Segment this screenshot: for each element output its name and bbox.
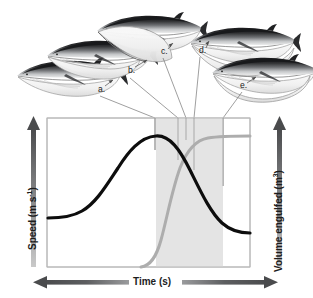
y-right-axis-label-close: ) bbox=[273, 170, 284, 173]
callout-label-e: e. bbox=[240, 80, 247, 90]
y-left-axis-label-close: ) bbox=[27, 187, 38, 190]
y-left-axis-exponent: -1 bbox=[26, 191, 33, 197]
y-left-axis-label: Speed (m s-1) bbox=[26, 187, 38, 250]
callout-label-d: d. bbox=[199, 45, 206, 55]
leader-a bbox=[100, 96, 155, 150]
callout-label-b: b. bbox=[128, 65, 135, 75]
whale-sequence bbox=[17, 12, 313, 102]
y-right-axis-exponent: 3 bbox=[272, 173, 279, 177]
whale-e bbox=[212, 54, 313, 102]
x-axis-label: Time (s) bbox=[133, 276, 171, 287]
engulfment-shaded-band bbox=[156, 118, 223, 267]
leader-e bbox=[223, 92, 242, 186]
y-right-axis-label-text: Volume engulfed (m bbox=[273, 177, 284, 272]
callout-label-a: a. bbox=[98, 84, 105, 94]
whale-lunge-feeding-figure: a. b. c. d. e. bbox=[0, 0, 313, 298]
y-left-axis-label-text: Speed (m s bbox=[27, 197, 38, 250]
callout-label-c: c. bbox=[161, 46, 168, 56]
y-right-axis-label: Volume engulfed (m3) bbox=[272, 170, 284, 272]
